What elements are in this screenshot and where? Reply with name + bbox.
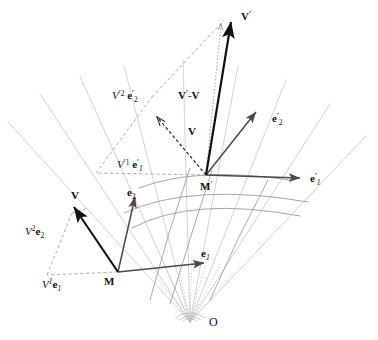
diagram-canvas: V′ V′-V V′2 e′2 V V′1 e′1 e′2 e′1 M′ (0, 0, 378, 340)
label-vector-difference: V′-V (178, 88, 200, 101)
label-vector-v-transported: V (188, 125, 196, 137)
label-point-m: M (104, 275, 115, 287)
parallel-transport-diagram: V′ V′-V V′2 e′2 V V′1 e′1 e′2 e′1 M′ (0, 0, 378, 340)
label-vector-v-lower: V (71, 189, 79, 201)
label-origin: O (209, 315, 218, 329)
